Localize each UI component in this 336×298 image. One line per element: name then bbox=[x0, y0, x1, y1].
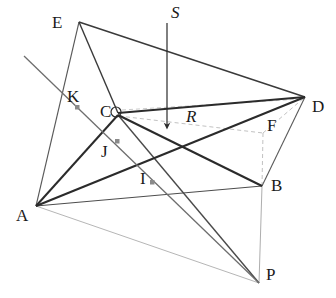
edge-E-C bbox=[79, 22, 118, 113]
point-label-I: I bbox=[140, 170, 146, 187]
geometry-figure: E C D B A P F R S K J I bbox=[0, 0, 336, 298]
edge-B-P bbox=[259, 186, 262, 283]
edge-A-P bbox=[36, 206, 259, 283]
edge-D-B bbox=[262, 97, 305, 186]
vertex-label-C: C bbox=[100, 103, 111, 120]
vertex-label-B: B bbox=[271, 177, 282, 194]
edge-A-D bbox=[36, 97, 305, 206]
vertex-label-D: D bbox=[312, 98, 324, 115]
point-I-marker bbox=[150, 180, 155, 185]
vertex-label-P: P bbox=[266, 266, 275, 283]
edge-A-B bbox=[36, 186, 262, 206]
vertex-label-R: R bbox=[186, 108, 196, 125]
point-J-marker bbox=[115, 139, 120, 144]
edge-C-P bbox=[118, 115, 259, 283]
edge-B-F-dashed bbox=[262, 133, 263, 186]
faint-edges bbox=[36, 186, 262, 283]
vertex-label-E: E bbox=[52, 14, 62, 31]
edge-C-D bbox=[118, 97, 305, 113]
figure-canvas bbox=[0, 0, 336, 298]
vertex-label-A: A bbox=[16, 207, 28, 224]
vertex-label-F: F bbox=[267, 117, 276, 134]
vertex-label-S: S bbox=[171, 4, 180, 21]
edge-E-D bbox=[79, 22, 305, 97]
point-label-K: K bbox=[67, 88, 79, 105]
heavy-edges bbox=[36, 97, 305, 206]
edge-E-A bbox=[36, 22, 79, 206]
point-label-J: J bbox=[101, 143, 108, 160]
